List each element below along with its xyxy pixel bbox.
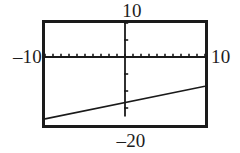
axis-label-xmin: –10 (2, 47, 42, 66)
axis-label-ymin: –20 (0, 131, 240, 150)
plot-window[interactable] (42, 20, 208, 128)
axis-label-ymax: 10 (0, 1, 240, 20)
graph-screenshot: 10 –10 10 –20 (0, 0, 240, 153)
axis-label-xmax: 10 (211, 47, 230, 66)
plot-canvas (45, 23, 205, 125)
